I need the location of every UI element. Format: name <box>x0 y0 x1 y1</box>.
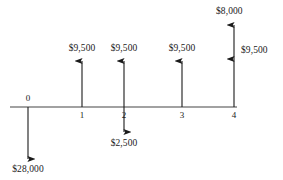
cash-flow-svg <box>0 0 283 180</box>
cashflow-label-period-0-outflow: $28,000 <box>12 165 44 175</box>
axis-tick-label-4: 4 <box>232 111 237 120</box>
axis-tick-label-3: 3 <box>180 111 185 120</box>
cashflow-label-period-4-salvage: $8,000 <box>216 7 243 17</box>
axis-tick-label-2: 2 <box>122 111 127 120</box>
cashflow-label-period-4-inflow: $9,500 <box>241 46 268 56</box>
axis-tick-label-0: 0 <box>26 94 31 103</box>
cashflow-label-period-2-outflow: $2,500 <box>111 139 138 149</box>
cashflow-label-period-1-inflow: $9,500 <box>69 44 96 54</box>
cashflow-label-period-2-inflow: $9,500 <box>111 44 138 54</box>
cash-flow-diagram: 0 1 2 3 4 $28,000 $9,500 $9,500 $2,500 $… <box>0 0 283 180</box>
cashflow-label-period-3-inflow: $9,500 <box>169 44 196 54</box>
axis-tick-label-1: 1 <box>80 111 85 120</box>
